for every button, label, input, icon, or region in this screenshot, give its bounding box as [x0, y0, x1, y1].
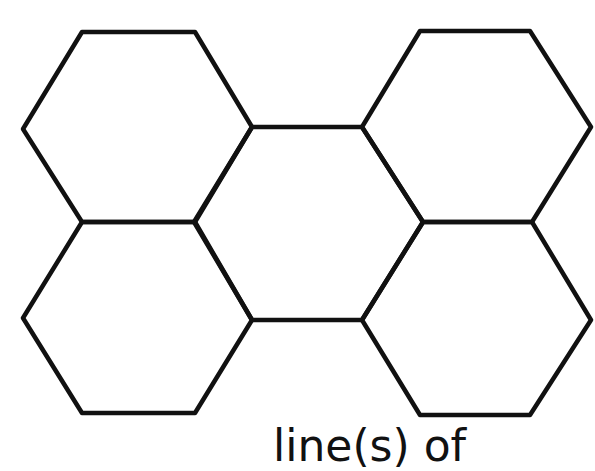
hexagon-top-right	[362, 31, 591, 222]
hexagon-top-left	[23, 32, 252, 222]
hexagon-center	[194, 127, 423, 320]
caption-text: line(s) of	[273, 424, 466, 468]
hexagon-bottom-right	[362, 222, 591, 415]
hexagon-bottom-left	[23, 222, 252, 413]
